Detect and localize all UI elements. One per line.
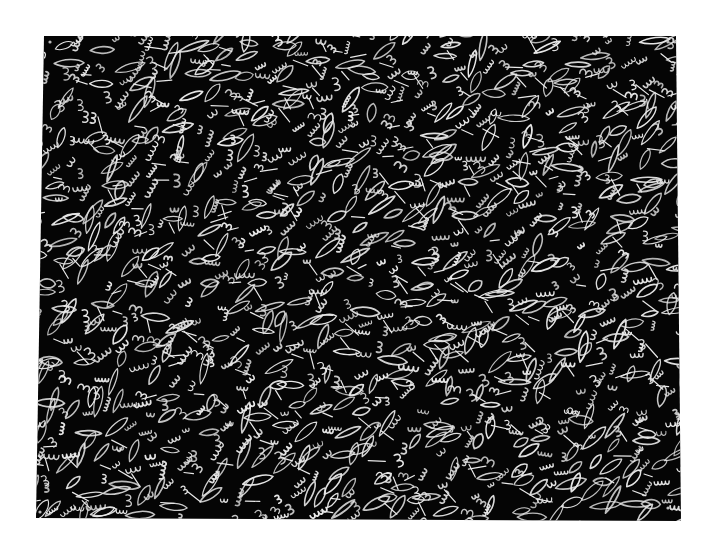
artwork-stage: White hand-drawn doodle pattern of leaf … (0, 0, 716, 554)
doodle-stroke (154, 530, 165, 533)
doodle-stem (34, 85, 42, 98)
doodle-stem (292, 528, 297, 541)
doodle-stroke (558, 23, 580, 33)
doodle-stroke (673, 267, 680, 271)
doodle-stroke (28, 142, 43, 151)
doodle-stem (677, 72, 688, 76)
doodle-stem (690, 144, 703, 148)
doodle-stroke (26, 42, 44, 59)
doodle-stroke (25, 179, 32, 182)
doodle-stroke (22, 122, 30, 126)
doodle-stroke (365, 527, 372, 539)
doodle-stroke (251, 18, 269, 32)
doodle-stroke (677, 123, 684, 136)
doodle-stem (678, 298, 688, 312)
doodle-stroke (93, 3, 117, 24)
doodle-stroke (315, 19, 343, 32)
doodle-stem (51, 520, 66, 524)
doodle-stroke (164, 521, 170, 531)
doodle-stroke (29, 206, 39, 214)
doodle-stroke (396, 22, 411, 27)
doodle-stroke (373, 25, 381, 29)
doodle-stroke (389, 4, 421, 27)
doodle-stroke (345, 22, 354, 31)
doodle-stem (660, 530, 671, 540)
doodle-stroke (584, 524, 594, 536)
doodle-stroke (27, 344, 34, 354)
doodle-stroke (173, 19, 202, 30)
doodle-stroke (678, 180, 684, 186)
doodle-stroke (576, 521, 582, 530)
doodle-stroke (155, 15, 163, 28)
doodle-stroke (466, 21, 473, 30)
doodle-stroke (231, 27, 240, 37)
doodle-stroke (597, 29, 608, 37)
doodle-stem (100, 26, 113, 33)
pin-hole (48, 40, 51, 43)
doodle-stroke (681, 123, 694, 143)
doodle-stem (28, 40, 43, 42)
doodle-stroke (30, 191, 40, 209)
doodle-stroke (181, 523, 199, 530)
doodle-stem (132, 208, 143, 209)
doodle-stroke (559, 522, 580, 532)
doodle-stroke (343, 26, 356, 37)
doodle-stroke (658, 27, 664, 34)
doodle-stroke (219, 526, 236, 535)
doodle-stem (289, 28, 304, 29)
doodle-stroke (30, 302, 39, 312)
doodle-stroke (18, 16, 36, 38)
doodle-stroke (681, 349, 708, 360)
doodle-stroke (645, 18, 656, 25)
doodle-stroke (300, 3, 316, 27)
doodle-stroke (679, 141, 700, 172)
doodle-stroke (607, 12, 636, 33)
doodle-artwork (0, 0, 716, 554)
doodle-stroke (73, 0, 89, 31)
doodle-stroke (126, 32, 137, 36)
doodle-stroke (26, 254, 37, 263)
doodle-stroke (606, 523, 621, 533)
doodle-stroke (279, 1, 300, 26)
doodle-stroke (194, 519, 206, 530)
doodle-stroke (286, 520, 313, 531)
doodle-stroke (684, 236, 691, 251)
doodle-stroke (494, 25, 523, 34)
doodle-stroke (678, 369, 691, 390)
doodle-stroke (29, 116, 42, 131)
doodle-stroke (633, 524, 643, 531)
doodle-stroke (676, 214, 690, 217)
doodle-stem (563, 194, 575, 195)
doodle-stem (684, 209, 694, 211)
doodle-stroke (24, 481, 34, 498)
doodle-stroke (616, 10, 641, 31)
doodle-stroke (219, 15, 228, 24)
doodle-stem (41, 522, 55, 525)
doodle-stroke (121, 526, 134, 539)
doodle-stem (160, 534, 164, 542)
doodle-stem (396, 27, 411, 37)
doodle-stroke (544, 29, 553, 35)
doodle-stroke (684, 96, 690, 99)
doodle-stroke (25, 92, 34, 104)
doodle-stem (262, 529, 279, 533)
doodle-stroke (654, 525, 660, 533)
doodle-stroke (46, 15, 52, 23)
pin-hole (666, 506, 669, 509)
doodle-stroke (506, 26, 527, 35)
doodle-stroke (320, 529, 329, 533)
doodle-stroke (117, 28, 134, 34)
doodle-stroke (31, 336, 38, 346)
doodle-stroke (510, 523, 519, 534)
pin-hole (38, 510, 41, 513)
doodle-stem (672, 124, 684, 125)
doodle-stem (682, 336, 689, 343)
doodle-stroke (22, 219, 41, 230)
doodle-stroke (682, 81, 692, 88)
doodle-stem (681, 218, 685, 225)
doodle-stroke (195, 0, 218, 27)
doodle-stroke (28, 82, 38, 85)
pin-hole (666, 40, 669, 43)
doodle-stem (127, 534, 144, 539)
doodle-stem (370, 532, 381, 546)
